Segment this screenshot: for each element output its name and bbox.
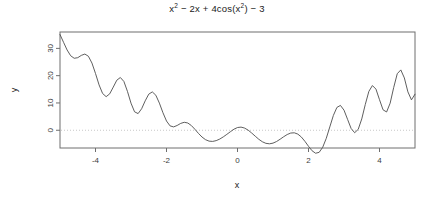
y-tick-label: 0 — [47, 127, 56, 132]
plot-area: -4-2024 0102030 x y — [0, 0, 434, 201]
y-tick-label: 10 — [47, 98, 56, 107]
function-curve — [60, 35, 415, 154]
y-tick-label: 30 — [46, 43, 55, 52]
y-axis-title: y — [9, 87, 19, 92]
y-axis-ticks — [56, 48, 60, 130]
x-axis-tick-labels: -4-2024 — [92, 156, 382, 165]
y-tick-label: 20 — [47, 71, 56, 80]
x-tick-label: 0 — [235, 156, 240, 165]
chart-container: x2 − 2x + 4cos(x2) − 3 -4-2024 0102030 x… — [0, 0, 434, 201]
y-axis-tick-labels: 0102030 — [46, 43, 55, 132]
x-tick-label: 2 — [306, 156, 311, 165]
data-series-curve — [60, 35, 415, 154]
x-axis-title: x — [235, 180, 240, 190]
x-tick-label: -4 — [92, 156, 100, 165]
x-tick-label: -2 — [163, 156, 171, 165]
x-axis-ticks — [96, 148, 380, 152]
x-tick-label: 4 — [377, 156, 382, 165]
